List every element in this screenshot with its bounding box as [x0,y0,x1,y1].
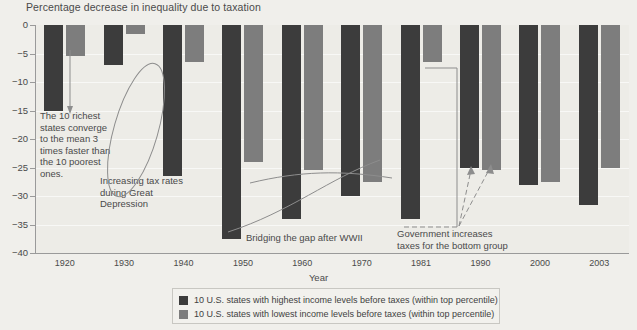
bar-1950-lowest [244,25,263,162]
legend-swatch-light-icon [179,310,188,319]
x-axis-line [35,253,629,254]
chart-title: Percentage decrease in inequality due to… [26,1,261,13]
x-axis-tick-label: 1950 [213,258,273,268]
bar-1981-highest [401,25,420,219]
bar-2003-lowest [601,25,620,168]
y-axis-tick-label: −30 [0,190,28,201]
annotation-line: the 10 poorest [40,156,135,168]
y-axis-tick-label: −5 [0,48,28,59]
x-axis-tick-label: 1970 [332,258,392,268]
gridline [35,225,629,226]
annotation-bridging-gap: Bridging the gap after WWII [246,232,376,244]
x-axis-tick-label: 1930 [94,258,154,268]
y-axis-tick-label: −25 [0,162,28,173]
annotation-line: to the mean 3 [40,133,135,145]
bar-1920-lowest [66,25,85,56]
chart-legend: 10 U.S. states with highest income level… [172,288,500,324]
y-axis-tick-mark [30,82,35,83]
y-axis-tick-mark [30,25,35,26]
y-axis-tick-mark [30,225,35,226]
annotation-line: taxes for the bottom group [397,240,537,252]
bar-1981-lowest [423,25,442,62]
y-axis-tick-label: 0 [0,19,28,30]
annotation-line: Bridging the gap after WWII [246,232,376,244]
bar-1970-highest [341,25,360,196]
y-axis-line [35,25,36,253]
chart-root: Percentage decrease in inequality due to… [0,0,637,330]
annotation-line: during Great [100,187,210,199]
legend-item-highest: 10 U.S. states with highest income level… [179,293,493,307]
x-axis-tick-label: 1981 [391,258,451,268]
legend-label-lowest: 10 U.S. states with lowest income levels… [194,309,494,319]
bar-1960-lowest [304,25,323,170]
y-axis-tick-mark [30,54,35,55]
bar-2003-highest [579,25,598,205]
annotation-line: Increasing tax rates [100,175,210,187]
x-axis-tick-label: 1940 [154,258,214,268]
y-axis-tick-label: −10 [0,76,28,87]
bar-1930-highest [104,25,123,65]
annotation-government-increases: Government increasestaxes for the bottom… [397,228,537,251]
x-axis-tick-label: 1960 [272,258,332,268]
y-axis-tick-label: −15 [0,105,28,116]
legend-swatch-dark-icon [179,296,188,305]
y-axis-tick-mark [30,168,35,169]
bar-1940-lowest [185,25,204,62]
annotation-line: Government increases [397,228,537,240]
bar-1920-highest [44,25,63,111]
y-axis-tick-label: −35 [0,219,28,230]
x-axis-title: Year [0,272,637,283]
legend-item-lowest: 10 U.S. states with lowest income levels… [179,307,493,321]
y-axis-tick-mark [30,196,35,197]
bar-1990-lowest [482,25,501,170]
legend-label-highest: 10 U.S. states with highest income level… [194,295,498,305]
x-axis-tick-label: 2003 [569,258,629,268]
bar-1990-highest [460,25,479,168]
annotation-line: Depression [100,198,210,210]
bar-2000-lowest [541,25,560,182]
gridline [35,54,629,55]
y-axis-tick-mark [30,111,35,112]
bar-1940-highest [163,25,182,176]
annotation-line: The 10 richest [40,110,135,122]
bar-1970-lowest [363,25,382,182]
annotation-great-depression: Increasing tax ratesduring GreatDepressi… [100,175,210,210]
x-axis-tick-label: 1990 [451,258,511,268]
gridline [35,82,629,83]
bar-1960-highest [282,25,301,219]
y-axis-tick-label: −20 [0,133,28,144]
y-axis-tick-mark [30,253,35,254]
x-axis-tick-label: 1920 [35,258,95,268]
annotation-line: states converge [40,122,135,134]
y-axis-tick-label: −40 [0,247,28,258]
y-axis-tick-mark [30,139,35,140]
annotation-line: times faster than [40,145,135,157]
bar-2000-highest [519,25,538,185]
bar-1930-lowest [126,25,145,34]
x-axis-tick-label: 2000 [510,258,570,268]
annotation-richest-converge: The 10 richeststates convergeto the mean… [40,110,135,180]
bar-1950-highest [222,25,241,239]
